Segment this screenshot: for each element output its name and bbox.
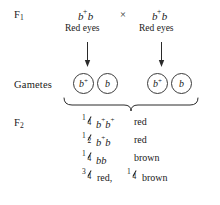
gamete-circle: b+ bbox=[147, 73, 168, 94]
parent1-phenotype: Red eyes bbox=[65, 23, 100, 33]
arrow-down-icon-parent1 bbox=[83, 42, 92, 68]
cross-symbol: × bbox=[120, 9, 126, 20]
f2-allele-a-superscript: + bbox=[101, 134, 105, 142]
summary-fraction-brown: 1 4 bbox=[127, 170, 140, 181]
fraction-denominator: 4 bbox=[88, 118, 92, 127]
parent1-allele1-superscript: + bbox=[83, 7, 87, 16]
parent2-genotype: b+b bbox=[152, 8, 167, 22]
stage-label-f2-subscript: 2 bbox=[20, 121, 24, 130]
gamete-circle: b bbox=[97, 73, 118, 94]
f2-results-list: 1 4 b+b+ red 1 2 b+b red 1 4 bb brown bbox=[82, 116, 114, 188]
summary-red-label: red, bbox=[97, 172, 112, 183]
f2-phenotype: red bbox=[134, 116, 147, 127]
f2-phenotype: red bbox=[134, 134, 147, 145]
arrow-down-icon-parent2 bbox=[157, 42, 166, 68]
summary-fraction-red: 3 4 bbox=[82, 170, 95, 181]
parent2-allele1-superscript: + bbox=[157, 7, 161, 16]
fraction-numerator: 3 bbox=[82, 167, 86, 176]
stage-label-f1: F1 bbox=[14, 9, 24, 20]
fraction-numerator: 1 bbox=[127, 167, 131, 176]
f2-fraction: 1 2 bbox=[82, 134, 95, 145]
stage-label-f2: F2 bbox=[14, 117, 24, 128]
f2-result-row: 1 4 bb brown bbox=[82, 152, 114, 170]
f2-phenotype-ratio-summary: 3 4 red, 1 4 brown bbox=[82, 170, 114, 188]
summary-brown-group: 1 4 brown bbox=[127, 170, 168, 183]
parent2-phenotype: Red eyes bbox=[139, 23, 174, 33]
f2-phenotype: brown bbox=[134, 152, 160, 163]
f2-fraction: 1 4 bbox=[82, 116, 95, 127]
fraction-numerator: 1 bbox=[82, 113, 86, 122]
f2-fraction: 1 4 bbox=[82, 152, 95, 163]
stage-label-f1-subscript: 1 bbox=[20, 13, 24, 22]
fraction-numerator: 1 bbox=[82, 149, 86, 158]
parent1-allele2: b bbox=[88, 10, 94, 22]
gamete-allele-superscript: + bbox=[158, 78, 162, 85]
fraction-denominator: 4 bbox=[88, 154, 92, 163]
fraction-denominator: 4 bbox=[88, 172, 92, 181]
f2-allele-a-superscript: + bbox=[101, 116, 105, 124]
f2-genotype: b+b+ bbox=[96, 117, 114, 130]
f2-genotype: b+b bbox=[96, 135, 110, 148]
fraction-numerator: 1 bbox=[82, 131, 86, 140]
f2-result-row: 1 4 b+b+ red bbox=[82, 116, 114, 134]
summary-brown-label: brown bbox=[142, 172, 168, 183]
gamete-circle: b+ bbox=[73, 73, 94, 94]
f2-result-row: 1 2 b+b red bbox=[82, 134, 114, 152]
f2-allele-b-superscript: + bbox=[110, 116, 114, 124]
gamete-allele: b bbox=[179, 79, 184, 89]
parent2-allele2: b bbox=[162, 10, 168, 22]
stage-label-gametes: Gametes bbox=[14, 79, 52, 90]
genetic-cross-diagram: F1 b+b × b+b Red eyes Red eyes Gametes b… bbox=[0, 0, 220, 205]
f2-allele-b: b bbox=[101, 154, 106, 165]
gamete-allele: b bbox=[105, 79, 110, 89]
gamete-brace-icon bbox=[63, 97, 199, 112]
f2-genotype: bb bbox=[96, 153, 107, 166]
gamete-allele-superscript: + bbox=[84, 78, 88, 85]
f2-allele-b: b bbox=[105, 136, 110, 147]
gamete-circle: b bbox=[171, 73, 192, 94]
parent1-genotype: b+b bbox=[78, 8, 93, 22]
fraction-denominator: 2 bbox=[88, 136, 92, 145]
fraction-denominator: 4 bbox=[133, 172, 137, 181]
